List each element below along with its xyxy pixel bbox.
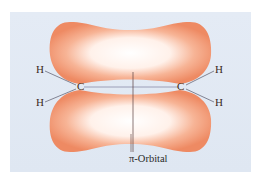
atom-h-bottom-left: H	[36, 97, 44, 108]
atom-h-bottom-right: H	[215, 97, 223, 108]
upper-pi-lobe	[50, 22, 211, 84]
pi-orbital-diagram: H H C C H H π-Orbital	[0, 0, 261, 179]
atom-c-right: C	[177, 81, 184, 92]
atom-h-top-right: H	[215, 64, 223, 75]
atom-c-left: C	[77, 81, 84, 92]
lower-pi-lobe	[50, 90, 211, 152]
atom-h-top-left: H	[36, 64, 44, 75]
pi-orbital-caption: π-Orbital	[129, 154, 168, 165]
